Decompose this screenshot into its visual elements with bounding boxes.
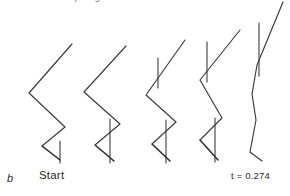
frame-1-foot bbox=[42, 146, 60, 160]
frame-4-body bbox=[200, 30, 240, 160]
time-label: t = 0.274 bbox=[231, 170, 270, 181]
stick-figure-sequence-plot bbox=[0, 0, 290, 196]
frame-3-foot bbox=[152, 144, 170, 161]
panel-letter: b bbox=[7, 172, 13, 184]
stick-figure-group bbox=[29, 2, 283, 163]
start-label: Start bbox=[39, 169, 64, 181]
frame-1-body bbox=[29, 44, 72, 160]
frame-2-body bbox=[84, 46, 126, 161]
frame-2-foot bbox=[95, 145, 114, 161]
figure-panel-b: ump height of 0.42 m b Start t = 0.274 bbox=[0, 0, 290, 196]
frame-5-body bbox=[250, 2, 283, 161]
